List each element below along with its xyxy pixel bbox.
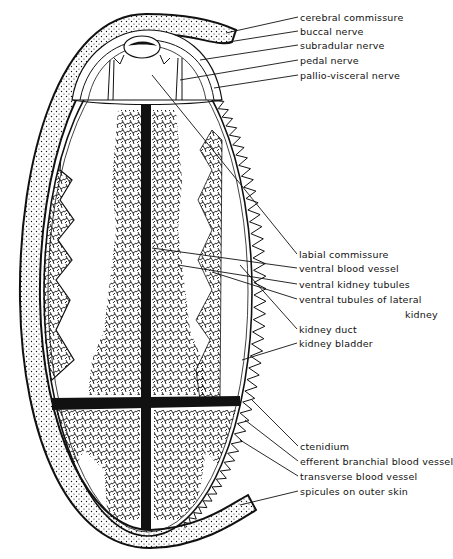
label-buccal-nerve: buccal nerve — [300, 26, 364, 37]
label-subradular-nerve: subradular nerve — [300, 40, 385, 51]
label-ventral-kidney-tubules: ventral kidney tubules — [299, 279, 410, 290]
ventral-blood-vessel — [141, 105, 151, 530]
label-ventral-blood-vessel: ventral blood vessel — [299, 263, 399, 274]
transverse-blood-vessel — [52, 396, 240, 410]
label-pallio-visceral-nerve: pallio-visceral nerve — [300, 70, 400, 81]
label-efferent-branchial-blood-vessel: efferent branchial blood vessel — [300, 456, 453, 467]
label-ventral-tubules-of-lateral-kidney-cont: kidney — [405, 309, 438, 320]
label-kidney-duct: kidney duct — [299, 324, 357, 335]
label-ctenidium: ctenidium — [300, 441, 349, 452]
label-spicules-on-outer-skin: spicules on outer skin — [300, 486, 408, 497]
label-cerebral-commissure: cerebral commissure — [300, 12, 403, 23]
label-labial-commissure: labial commissure — [299, 249, 389, 260]
label-pedal-nerve: pedal nerve — [300, 55, 359, 66]
label-kidney-bladder: kidney bladder — [299, 338, 373, 349]
label-ventral-tubules-of-lateral-kidney: ventral tubules of lateral — [299, 294, 422, 305]
label-transverse-blood-vessel: transverse blood vessel — [300, 471, 417, 482]
